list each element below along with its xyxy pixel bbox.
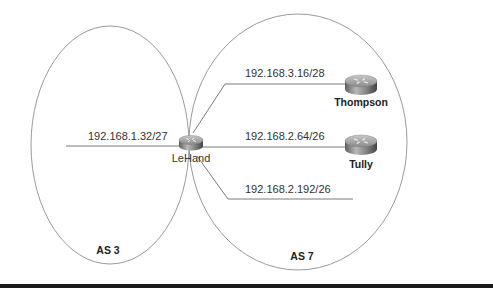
- router-icon[interactable]: [345, 135, 377, 155]
- network-label: 192.168.2.192/26: [245, 183, 331, 195]
- as-label: AS 7: [290, 250, 314, 262]
- bottom-rule: [0, 284, 493, 288]
- router-label-tully: Tully: [349, 158, 373, 170]
- router-icon[interactable]: [345, 75, 377, 95]
- network-diagram: LeHand Thompson Tully 192.168.1.32/27 19…: [0, 0, 493, 291]
- router-label-thompson: Thompson: [334, 96, 388, 108]
- as3-boundary: [31, 26, 189, 264]
- network-label: 192.168.3.16/28: [245, 67, 325, 79]
- router-label-lehand: LeHand: [172, 152, 211, 164]
- link-192-168-3-16: [193, 84, 345, 133]
- as-label: AS 3: [96, 244, 120, 256]
- network-label: 192.168.2.64/26: [245, 130, 325, 142]
- network-label: 192.168.1.32/27: [88, 130, 168, 142]
- router-icon[interactable]: [179, 136, 203, 151]
